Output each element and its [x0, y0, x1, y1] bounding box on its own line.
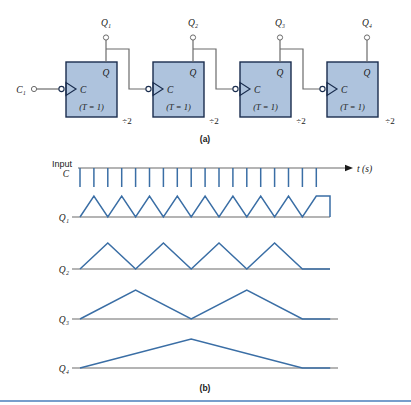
- time-axis-label: t (s): [357, 164, 372, 175]
- c1-input-label: C₁: [16, 85, 26, 95]
- q4-terminal-circle: [364, 35, 369, 40]
- figure-ripple-counter: C₁ C Q (T = 1) Q₁ ÷2 C Q (T = 1): [0, 0, 411, 405]
- flipflop-2-clock-bubble: [146, 86, 151, 91]
- flipflop-3-clock-bubble: [233, 86, 238, 91]
- flipflop-3-q-pin-label: Q: [277, 68, 284, 78]
- flipflop-4-c-pin-label: C: [341, 85, 348, 95]
- timing-label-q2: Q₂: [59, 265, 70, 275]
- flipflop-4-mode-label: (T = 1): [340, 102, 365, 112]
- flipflop-2-divider-label: ÷2: [209, 116, 218, 126]
- q1-terminal-circle: [103, 35, 108, 40]
- q1-output-label: Q₁: [101, 18, 111, 28]
- figure-background: [0, 0, 411, 405]
- flipflop-1-q-pin-label: Q: [103, 68, 110, 78]
- timing-input-label-line2: C: [63, 169, 70, 179]
- flipflop-2-c-pin-label: C: [167, 85, 174, 95]
- flipflop-1-divider-label: ÷2: [122, 116, 131, 126]
- flipflop-3-c-pin-label: C: [254, 85, 261, 95]
- q3-output-label: Q₃: [275, 18, 285, 28]
- flipflop-3-divider-label: ÷2: [296, 116, 305, 126]
- flipflop-4-q-pin-label: Q: [364, 68, 371, 78]
- flipflop-2-q-pin-label: Q: [190, 68, 197, 78]
- flipflop-4-divider-label: ÷2: [385, 116, 394, 126]
- panel-a-caption: (a): [200, 134, 211, 144]
- q2-output-label: Q₂: [188, 18, 199, 28]
- flipflop-1-c-pin-label: C: [80, 85, 87, 95]
- q2-terminal-circle: [190, 35, 195, 40]
- flipflop-1-mode-label: (T = 1): [79, 102, 104, 112]
- q4-output-label: Q₄: [362, 18, 372, 28]
- flipflop-2-mode-label: (T = 1): [166, 102, 191, 112]
- timing-label-q3: Q₃: [59, 315, 69, 325]
- q3-terminal-circle: [277, 35, 282, 40]
- timing-input-label-line1: Input: [52, 159, 73, 169]
- flipflop-3-mode-label: (T = 1): [253, 102, 278, 112]
- c1-terminal-circle: [31, 86, 36, 91]
- flipflop-4-clock-bubble: [320, 86, 325, 91]
- panel-b-caption: (b): [200, 383, 211, 393]
- timing-label-q4: Q₄: [59, 364, 69, 374]
- timing-label-q1: Q₁: [59, 213, 69, 223]
- flipflop-1-clock-bubble: [59, 86, 64, 91]
